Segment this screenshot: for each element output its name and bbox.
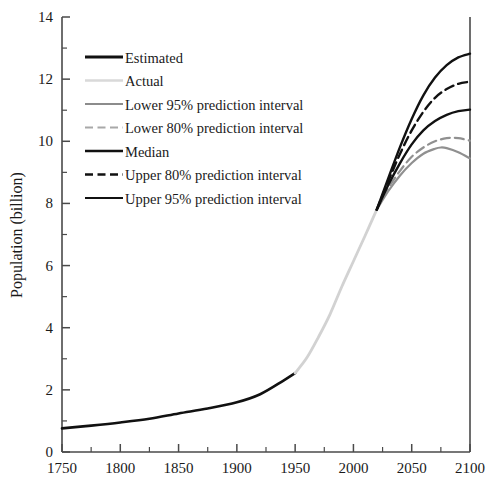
y-tick-label: 0 [46,444,54,460]
y-tick-label: 8 [46,195,54,211]
y-axis-title: Population (billion) [8,172,26,298]
y-tick-label: 10 [38,133,53,149]
y-tick-label: 6 [46,258,54,274]
legend-label: Upper 80% prediction interval [125,167,302,183]
population-projection-chart: Population (billion) 02468101214 1750180… [0,0,486,486]
legend-label: Estimated [125,50,184,66]
x-tick-label: 2050 [397,460,427,476]
x-tick-label: 2100 [455,460,485,476]
y-tick-label: 12 [38,71,53,87]
chart-canvas: Population (billion) 02468101214 1750180… [0,0,486,486]
x-tick-label: 1750 [47,460,77,476]
chart-background [0,0,486,486]
x-tick-label: 1800 [105,460,135,476]
x-tick-label: 1900 [222,460,252,476]
legend-label: Median [125,144,170,160]
x-tick-label: 2000 [338,460,368,476]
x-tick-label: 1850 [164,460,194,476]
legend-label: Actual [125,73,164,89]
y-tick-label: 2 [46,382,54,398]
x-tick-label: 1950 [280,460,310,476]
legend-label: Lower 95% prediction interval [125,97,303,113]
y-axis-title-text: Population (billion) [8,172,26,298]
y-tick-label: 14 [38,9,54,25]
legend-label: Upper 95% prediction interval [125,191,302,207]
legend-label: Lower 80% prediction interval [125,120,303,136]
y-tick-label: 4 [46,320,54,336]
